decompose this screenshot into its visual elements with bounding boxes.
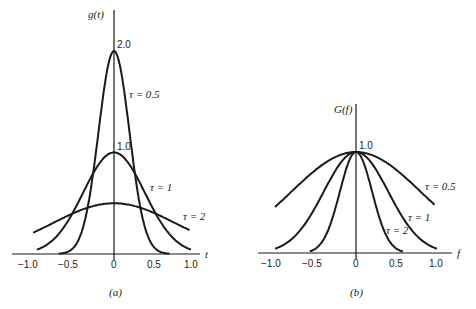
tick-a-05: 0.5 [147, 259, 161, 270]
legend-b-tau-1: τ = 1 [408, 211, 430, 223]
caption-b: (b) [350, 286, 363, 299]
peak-label-b: 1.0 [359, 140, 373, 151]
tick-a-1: 1.0 [184, 259, 198, 270]
legend-b-tau-0.5: τ = 0.5 [425, 180, 456, 192]
panel-a: g(t) t 2.0 1.0 τ = 0.5 τ = 1 τ = 2 −1.0 … [12, 8, 209, 299]
tick-a-0: 0 [111, 259, 117, 270]
panel-b: G(f) f 1.0 τ = 0.5 τ = 1 τ = 2 −1.0 −0.5… [258, 103, 462, 299]
xlabel-a: t [205, 248, 209, 260]
legend-b-tau-2: τ = 2 [386, 224, 409, 236]
tick-a-neg05: −0.5 [58, 259, 78, 270]
curve-b-tau-0.5 [275, 152, 435, 207]
tick-b-neg1: −1.0 [261, 258, 281, 269]
tick-b-neg05: −0.5 [302, 258, 322, 269]
caption-a: (a) [109, 286, 122, 299]
figure: g(t) t 2.0 1.0 τ = 0.5 τ = 1 τ = 2 −1.0 … [0, 0, 476, 309]
peak-label-2: 2.0 [117, 39, 131, 50]
legend-a-tau-0.5: τ = 0.5 [129, 88, 160, 100]
tick-b-05: 0.5 [389, 258, 403, 269]
tick-a-neg1: −1.0 [18, 259, 38, 270]
ylabel-b: G(f) [334, 103, 353, 116]
legend-a-tau-2: τ = 2 [183, 210, 206, 222]
ylabel-a: g(t) [88, 8, 104, 21]
peak-label-1: 1.0 [117, 141, 131, 152]
tick-b-0: 0 [353, 258, 359, 269]
tick-b-1: 1.0 [429, 258, 443, 269]
xlabel-b: f [457, 247, 462, 259]
legend-a-tau-1: τ = 1 [150, 181, 172, 193]
